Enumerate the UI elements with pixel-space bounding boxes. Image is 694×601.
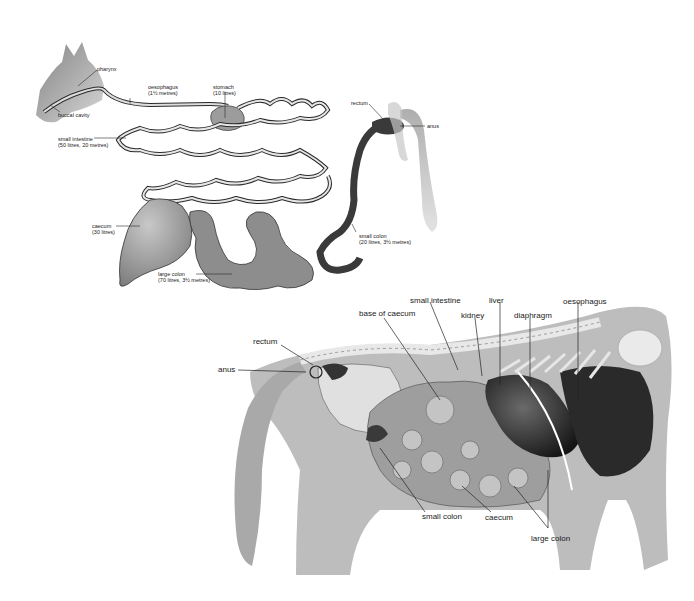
digestive-system-diagram: pharynx buccal cavity oesophagus (1½ met… [0,0,694,601]
label-stomach: stomach (10 litres) [213,84,236,97]
small-colon-shape [320,124,386,270]
label-small-colon-top: small colon (20 litres, 3½ metres) [359,233,411,246]
label-large-colon-bottom: large colon [531,534,570,543]
top-schematic [36,42,437,290]
label-anus-bottom: anus [218,365,235,374]
label-caecum-bottom: caecum [485,513,513,522]
label-small-intestine-bottom: small intestine [410,296,461,305]
shoulder-joint [618,330,662,366]
label-rectum-bottom: rectum [253,337,277,346]
label-large-colon-top: large colon (70 litres, 3½ metres) [158,271,210,284]
label-oesophagus-top: oesophagus (1½ metres) [148,84,178,97]
label-diaphragm: diaphragm [514,311,552,320]
label-kidney: kidney [461,311,484,320]
bottom-anatomy [235,302,672,575]
label-small-intestine-top: small intestine (50 litres, 20 metres) [58,136,108,149]
label-base-of-caecum: base of caecum [359,309,415,318]
label-pharynx: pharynx [97,66,117,72]
label-anus-top: anus [427,123,439,129]
label-oesophagus-bottom: oesophagus [563,297,607,306]
label-rectum-top: rectum [351,100,368,106]
label-small-colon-bottom: small colon [422,512,462,521]
label-liver: liver [489,296,504,305]
label-caecum-top: caecum (30 litres) [92,223,115,236]
label-buccal-cavity: buccal cavity [58,112,90,118]
